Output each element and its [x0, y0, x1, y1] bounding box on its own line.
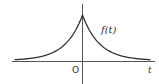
exponential-diagram: f(t) O t — [0, 0, 159, 84]
function-label: f(t) — [100, 24, 117, 35]
plot-canvas: f(t) O t — [0, 0, 159, 84]
origin-label: O — [72, 65, 79, 75]
x-axis-label: t — [148, 65, 152, 75]
